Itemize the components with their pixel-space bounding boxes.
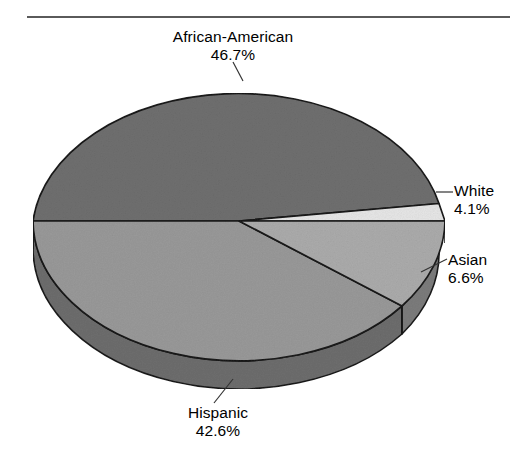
slice-label-african-american-name: African-American: [133, 28, 333, 46]
slice-top-african-american: [33, 94, 439, 221]
slice-label-hispanic-name: Hispanic: [128, 404, 308, 422]
pie-chart-figure: African-American 46.7% Hispanic 42.6% Wh…: [0, 0, 527, 459]
slice-label-white-name: White: [454, 182, 524, 200]
slice-label-hispanic: Hispanic 42.6%: [128, 404, 308, 439]
slice-label-asian-name: Asian: [448, 251, 522, 269]
slice-label-white: White 4.1%: [454, 182, 524, 217]
slice-label-hispanic-percent: 42.6%: [128, 422, 308, 440]
pie-chart-graphic: [0, 0, 527, 459]
slice-label-african-american: African-American 46.7%: [133, 28, 333, 63]
slice-label-asian-percent: 6.6%: [448, 269, 522, 287]
slice-label-african-american-percent: 46.7%: [133, 46, 333, 64]
slice-label-white-percent: 4.1%: [454, 200, 524, 218]
slice-label-asian: Asian 6.6%: [448, 251, 522, 286]
leader-line-african-american: [233, 62, 243, 81]
